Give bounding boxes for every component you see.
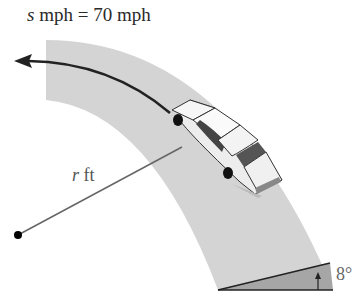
- radius-unit: ft: [79, 165, 95, 185]
- speed-label: s mph = 70 mph: [27, 4, 151, 26]
- diagram-graphics: [0, 0, 363, 308]
- speed-text: mph = 70 mph: [34, 4, 150, 25]
- radius-label: r ft: [72, 165, 95, 186]
- radius-variable: r: [72, 165, 79, 185]
- radius-line: [18, 147, 182, 235]
- center-point: [14, 231, 22, 239]
- bank-angle-label: 8°: [336, 264, 352, 285]
- banked-curve-diagram: s mph = 70 mph r ft 8°: [0, 0, 363, 308]
